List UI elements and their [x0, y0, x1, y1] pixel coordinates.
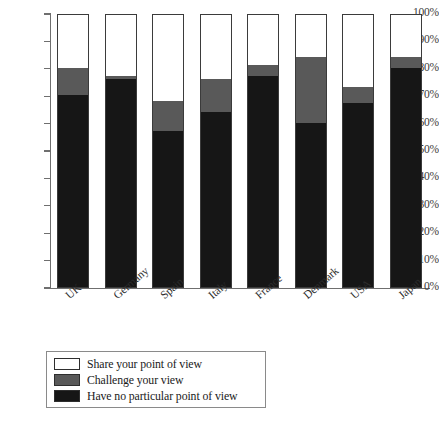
bar-segment-have-no-particular-point-of-view[interactable]	[58, 95, 88, 287]
bar-segment-have-no-particular-point-of-view[interactable]	[201, 112, 231, 287]
bar-group	[295, 14, 327, 288]
bar-segment-have-no-particular-point-of-view[interactable]	[296, 123, 326, 287]
bar-segment-challenge-your-view[interactable]	[248, 65, 278, 76]
bar-segment-share-your-point-of-view[interactable]	[391, 14, 421, 57]
bar-segment-have-no-particular-point-of-view[interactable]	[343, 103, 373, 287]
legend-swatch	[54, 358, 80, 370]
bar-group	[152, 14, 184, 288]
stacked-bar[interactable]	[152, 14, 184, 288]
stacked-bar[interactable]	[247, 14, 279, 288]
bar-group	[247, 14, 279, 288]
bar-segment-share-your-point-of-view[interactable]	[343, 14, 373, 87]
legend-label: Share your point of view	[87, 357, 202, 372]
bar-segment-challenge-your-view[interactable]	[153, 101, 183, 131]
stacked-bar[interactable]	[342, 14, 374, 288]
legend-label: Challenge your view	[87, 373, 183, 388]
chart-legend: Share your point of viewChallenge your v…	[46, 351, 266, 408]
legend-item[interactable]: Challenge your view	[54, 372, 265, 388]
legend-swatch	[54, 374, 80, 386]
bar-segment-share-your-point-of-view[interactable]	[153, 14, 183, 101]
bar-segment-challenge-your-view[interactable]	[58, 68, 88, 95]
bar-group	[105, 14, 137, 288]
stacked-bar[interactable]	[295, 14, 327, 288]
bar-segment-share-your-point-of-view[interactable]	[248, 14, 278, 65]
bar-segment-share-your-point-of-view[interactable]	[58, 14, 88, 68]
stacked-bar[interactable]	[57, 14, 89, 288]
plot-area	[50, 14, 430, 288]
legend-swatch	[54, 390, 80, 402]
legend-label: Have no particular point of view	[87, 389, 237, 404]
bar-group	[342, 14, 374, 288]
stacked-bar-chart: 0%10%20%30%40%50%60%70%80%90%100% UKGerm…	[0, 0, 439, 422]
bar-segment-challenge-your-view[interactable]	[296, 57, 326, 123]
bar-segment-have-no-particular-point-of-view[interactable]	[248, 76, 278, 287]
bar-segment-have-no-particular-point-of-view[interactable]	[391, 68, 421, 287]
bar-segment-have-no-particular-point-of-view[interactable]	[153, 131, 183, 287]
bar-segment-have-no-particular-point-of-view[interactable]	[106, 79, 136, 287]
stacked-bar[interactable]	[390, 14, 422, 288]
bar-segment-share-your-point-of-view[interactable]	[201, 14, 231, 79]
stacked-bar[interactable]	[200, 14, 232, 288]
bar-segment-share-your-point-of-view[interactable]	[296, 14, 326, 57]
bar-segment-challenge-your-view[interactable]	[343, 87, 373, 103]
legend-item[interactable]: Share your point of view	[54, 356, 265, 372]
bar-group	[390, 14, 422, 288]
legend-item[interactable]: Have no particular point of view	[54, 388, 265, 404]
x-axis-line	[50, 288, 430, 289]
bar-segment-challenge-your-view[interactable]	[391, 57, 421, 68]
bar-group	[57, 14, 89, 288]
bar-group	[200, 14, 232, 288]
bar-segment-challenge-your-view[interactable]	[201, 79, 231, 112]
bar-segment-share-your-point-of-view[interactable]	[106, 14, 136, 76]
stacked-bar[interactable]	[105, 14, 137, 288]
